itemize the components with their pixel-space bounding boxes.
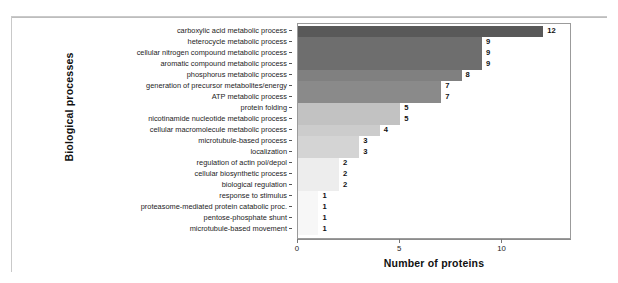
y-axis-tick-label: pentose-phosphate shunt [60, 212, 292, 223]
y-axis-tick-mark [289, 217, 292, 218]
y-axis-tick-label: microtubule-based movement [60, 223, 292, 234]
x-axis-tick-label: 5 [397, 244, 401, 253]
y-axis-tick-label: nicotinamide nucleotide metabolic proces… [60, 113, 292, 124]
y-axis-tick-mark [289, 228, 292, 229]
y-axis-tick-mark [289, 140, 292, 141]
y-axis-category-labels: carboxylic acid metabolic processheteroc… [60, 23, 292, 238]
x-axis-tick-mark [501, 239, 502, 243]
bar [298, 147, 359, 158]
bar-value-label: 2 [343, 179, 347, 191]
bar [298, 158, 339, 169]
y-axis-tick-label: cellular macromolecule metabolic process [60, 124, 292, 135]
bar-row: 2 [298, 180, 572, 191]
bar-row: 8 [298, 70, 572, 81]
bar [298, 103, 400, 114]
y-axis-tick-mark [289, 85, 292, 86]
x-axis-tick-label: 0 [295, 244, 299, 253]
y-axis-tick-mark [289, 206, 292, 207]
y-axis-tick-label: cellular biosynthetic process [60, 168, 292, 179]
bar-row: 5 [298, 103, 572, 114]
y-axis-tick-mark [289, 63, 292, 64]
bar-row: 3 [298, 147, 572, 158]
y-axis-tick-label: localization [60, 146, 292, 157]
y-axis-tick-label: microtubule-based process [60, 135, 292, 146]
bar-value-label: 4 [384, 124, 388, 136]
bar-row: 1 [298, 213, 572, 224]
y-axis-tick-label: protein folding [60, 102, 292, 113]
bar-value-label: 9 [486, 58, 490, 70]
y-axis-tick-mark [289, 41, 292, 42]
bar-row: 3 [298, 136, 572, 147]
bar-row: 5 [298, 114, 572, 125]
x-axis-tick-mark [297, 239, 298, 243]
bar [298, 59, 482, 70]
y-axis-tick-mark [289, 151, 292, 152]
bar [298, 180, 339, 191]
bar-row: 9 [298, 48, 572, 59]
x-axis-tick-mark [399, 239, 400, 243]
bar [298, 224, 318, 235]
y-axis-tick-label: carboxylic acid metabolic process [60, 25, 292, 36]
bar-row: 4 [298, 125, 572, 136]
bar-value-label: 5 [404, 113, 408, 125]
y-axis-tick-mark [289, 173, 292, 174]
x-axis-title: Number of proteins [297, 257, 571, 269]
y-axis-tick-label: proteasome-mediated protein catabolic pr… [60, 201, 292, 212]
y-axis-tick-label: heterocycle metabolic process [60, 36, 292, 47]
bar [298, 92, 441, 103]
y-axis-tick-mark [289, 96, 292, 97]
bar [298, 70, 462, 81]
y-axis-tick-mark [289, 30, 292, 31]
bar [298, 191, 318, 202]
bar-row: 1 [298, 202, 572, 213]
bar-row: 9 [298, 37, 572, 48]
bar-value-label: 7 [445, 91, 449, 103]
y-axis-tick-label: generation of precursor metabolites/ener… [60, 80, 292, 91]
bar-row: 2 [298, 158, 572, 169]
bar [298, 48, 482, 59]
y-axis-tick-mark [289, 195, 292, 196]
bar-row: 1 [298, 191, 572, 202]
bar-chart-plot-area: 12999877554332221111 [297, 23, 571, 239]
x-axis-tick-label: 10 [497, 244, 506, 253]
y-axis-tick-mark [289, 129, 292, 130]
bar-row: 2 [298, 169, 572, 180]
bar-value-label: 1 [322, 223, 326, 235]
bar [298, 169, 339, 180]
y-axis-tick-label: phosphorus metabolic process [60, 69, 292, 80]
y-axis-tick-mark [289, 118, 292, 119]
bar [298, 37, 482, 48]
bar [298, 202, 318, 213]
bar [298, 81, 441, 92]
y-axis-tick-label: aromatic compound metabolic process [60, 58, 292, 69]
bar [298, 213, 318, 224]
bar-row: 12 [298, 26, 572, 37]
x-axis: 0510 [297, 239, 571, 240]
y-axis-tick-mark [289, 74, 292, 75]
bar-value-label: 8 [466, 69, 470, 81]
y-axis-tick-mark [289, 107, 292, 108]
chart-plot-wrapper: carboxylic acid metabolic processheteroc… [12, 17, 608, 273]
y-axis-tick-label: biological regulation [60, 179, 292, 190]
y-axis-tick-label: cellular nitrogen compound metabolic pro… [60, 47, 292, 58]
figure-frame: Biological processes carboxylic acid met… [11, 16, 607, 272]
bar [298, 136, 359, 147]
bar-row: 7 [298, 81, 572, 92]
y-axis-tick-label: ATP metabolic process [60, 91, 292, 102]
y-axis-tick-mark [289, 184, 292, 185]
bar [298, 26, 543, 37]
y-axis-tick-label: regulation of actin pol/depol [60, 157, 292, 168]
y-axis-tick-mark [289, 52, 292, 53]
bar-value-label: 12 [547, 25, 555, 37]
bar-value-label: 3 [363, 146, 367, 158]
y-axis-tick-mark [289, 162, 292, 163]
bar-row: 7 [298, 92, 572, 103]
y-axis-tick-label: response to stimulus [60, 190, 292, 201]
bar-row: 1 [298, 224, 572, 235]
bar-row: 9 [298, 59, 572, 70]
